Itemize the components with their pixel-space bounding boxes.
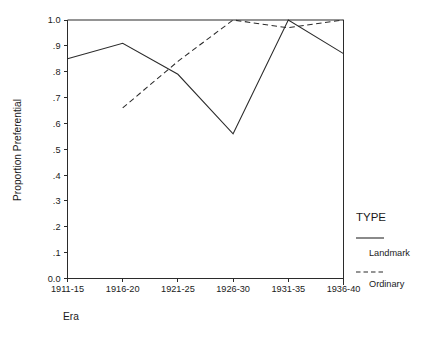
legend-label-landmark: Landmark [369, 248, 410, 258]
y-axis-title: Proportion Preferential [12, 99, 23, 201]
y-tick-label: .9 [53, 41, 61, 51]
x-tick-label: 1911-15 [51, 284, 84, 294]
x-tick-label: 1931-35 [271, 284, 305, 294]
line-chart: 0.0.1.2.3.4.5.6.7.8.91.0 1911-151916-201… [0, 0, 431, 347]
series-line-landmark [68, 20, 344, 134]
y-tick-label: .3 [53, 196, 61, 206]
y-tick-label: .1 [53, 248, 61, 258]
y-tick-label: .2 [53, 222, 61, 232]
x-axis-ticks [68, 279, 344, 283]
legend-title: TYPE [356, 211, 386, 223]
y-axis-tick-labels: 0.0.1.2.3.4.5.6.7.8.91.0 [48, 15, 61, 284]
x-tick-label: 1916-20 [106, 284, 140, 294]
legend-entries: LandmarkOrdinary [356, 238, 410, 289]
x-tick-label: 1926-30 [216, 284, 250, 294]
y-tick-label: 1.0 [48, 15, 61, 25]
y-tick-label: .7 [53, 93, 61, 103]
y-tick-label: .8 [53, 67, 61, 77]
x-axis-tick-labels: 1911-151916-201921-251926-301931-351936-… [51, 284, 360, 294]
y-tick-label: .5 [53, 145, 61, 155]
data-series-group [68, 20, 344, 134]
chart-container: 0.0.1.2.3.4.5.6.7.8.91.0 1911-151916-201… [0, 0, 431, 347]
x-axis-title: Era [63, 311, 79, 322]
legend-label-ordinary: Ordinary [369, 279, 405, 289]
y-tick-label: .6 [53, 119, 61, 129]
y-axis-ticks [64, 20, 68, 279]
y-tick-label: 0.0 [48, 274, 61, 284]
y-tick-label: .4 [53, 171, 61, 181]
x-tick-label: 1921-25 [161, 284, 195, 294]
x-tick-label: 1936-40 [327, 284, 361, 294]
